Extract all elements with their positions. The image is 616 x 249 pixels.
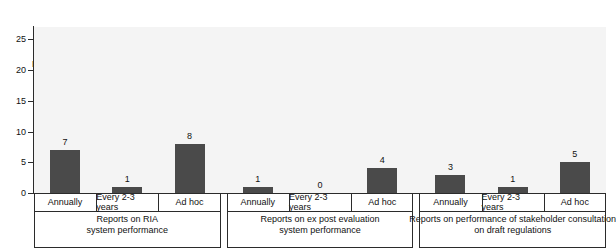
group-separator	[34, 193, 35, 212]
bar: 0	[305, 27, 335, 193]
bar-rect	[50, 150, 80, 193]
y-tick-label: 0	[2, 189, 26, 198]
group-label: Reports on ex post evaluationsystem perf…	[227, 212, 414, 248]
category-separator	[158, 193, 159, 212]
group-label-line-1: Reports on ex post evaluation	[260, 214, 379, 225]
bar-value-label: 1	[125, 175, 130, 184]
category-separator	[96, 193, 97, 212]
bar: 1	[498, 27, 528, 193]
group-separator	[227, 193, 228, 212]
category-label-band: AnnuallyEvery 2-3 yearsAd hocAnnuallyEve…	[33, 193, 606, 212]
group-label-line-2: system performance	[87, 225, 169, 236]
group-label-line-1: Reports on RIA	[97, 214, 159, 225]
group-separator	[419, 193, 420, 212]
group-label: Reports on RIAsystem performance	[34, 212, 221, 248]
bars-layer: 718104315	[34, 27, 606, 193]
bar: 5	[560, 27, 590, 193]
bar: 8	[175, 27, 205, 193]
bar-value-label: 0	[317, 181, 322, 190]
group-band-separator	[34, 212, 35, 248]
group-separator	[220, 193, 221, 212]
group-label-line-1: Reports on performance of stakeholder co…	[409, 214, 616, 225]
bar: 1	[112, 27, 142, 193]
group-band-separator	[419, 212, 420, 248]
bar-value-label: 5	[572, 150, 577, 159]
y-tick-label: 25	[2, 35, 26, 44]
group-label-line-2: system performance	[279, 225, 361, 236]
group-band-separator	[605, 212, 606, 248]
bar-rect	[367, 168, 397, 193]
category-label: Every 2-3 years	[482, 193, 544, 212]
category-label: Ad hoc	[158, 193, 220, 212]
group-label-line-2: on draft regulations	[474, 225, 551, 236]
category-label: Annually	[227, 193, 289, 212]
group-label: Reports on performance of stakeholder co…	[419, 212, 606, 248]
category-separator	[544, 193, 545, 212]
category-label: Annually	[419, 193, 481, 212]
bar-value-label: 1	[510, 175, 515, 184]
bar: 4	[367, 27, 397, 193]
bar-rect	[175, 144, 205, 193]
bar-value-label: 3	[448, 163, 453, 172]
group-band-separator	[227, 212, 228, 248]
bar-value-label: 7	[63, 138, 68, 147]
category-separator	[289, 193, 290, 212]
bar-value-label: 1	[255, 175, 260, 184]
category-separator	[482, 193, 483, 212]
category-label: Annually	[34, 193, 96, 212]
bar: 3	[435, 27, 465, 193]
y-tick-label: 20	[2, 66, 26, 75]
category-label: Ad hoc	[351, 193, 413, 212]
category-separator	[351, 193, 352, 212]
y-tick-label: 5	[2, 158, 26, 167]
group-label-band: Reports on RIAsystem performanceReports …	[33, 212, 606, 248]
y-tick-label: 10	[2, 128, 26, 137]
group-separator	[605, 193, 606, 212]
bar-value-label: 4	[380, 156, 385, 165]
y-tick-label: 15	[2, 97, 26, 106]
category-label: Every 2-3 years	[96, 193, 158, 212]
bar-rect	[560, 162, 590, 193]
bar: 1	[243, 27, 273, 193]
bar-value-label: 8	[187, 132, 192, 141]
category-label: Every 2-3 years	[289, 193, 351, 212]
bar-rect	[435, 175, 465, 193]
group-band-separator	[220, 212, 221, 248]
bar: 7	[50, 27, 80, 193]
group-separator	[412, 193, 413, 212]
category-label: Ad hoc	[544, 193, 606, 212]
